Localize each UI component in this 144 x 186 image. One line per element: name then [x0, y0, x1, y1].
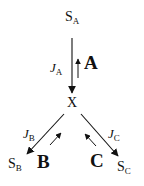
enzyme-b-label: B — [37, 152, 50, 171]
node-source-letter: S — [65, 9, 73, 24]
flux-b-label: JB — [23, 127, 35, 143]
node-sink-c-sub: C — [125, 166, 131, 176]
node-branch-label: X — [67, 96, 77, 110]
node-sink-c-letter: S — [117, 159, 125, 174]
enzyme-c-label: C — [90, 151, 104, 170]
flux-c-sub: C — [114, 133, 120, 143]
node-sink-c-label: SC — [117, 160, 131, 176]
node-source-sub: A — [73, 16, 80, 26]
enzyme-a-label: A — [84, 53, 98, 72]
flux-c-label: JC — [108, 127, 120, 143]
flux-b-sub: B — [29, 133, 35, 143]
enzyme-arrow-b — [50, 133, 61, 145]
node-sink-b-sub: B — [16, 163, 22, 173]
node-source-label: SA — [65, 10, 79, 26]
node-sink-b-label: SB — [8, 157, 22, 173]
flux-a-sub: A — [56, 67, 63, 77]
node-sink-b-letter: S — [8, 156, 16, 171]
enzyme-arrow-c — [85, 134, 96, 146]
flux-a-label: JA — [50, 61, 62, 77]
node-branch-letter: X — [67, 95, 77, 110]
